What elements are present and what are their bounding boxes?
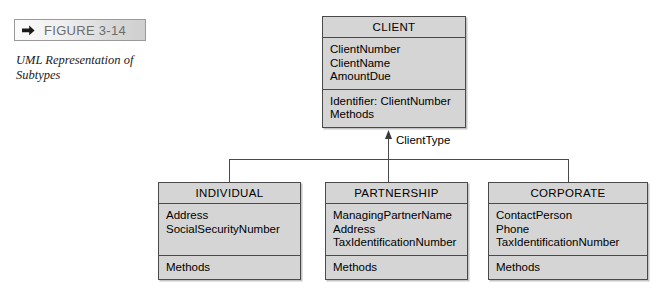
attribute: TaxIdentificationNumber <box>496 236 647 250</box>
attribute: Phone <box>496 223 647 237</box>
class-operations-individual: Methods <box>159 256 300 280</box>
class-attributes-individual: Address SocialSecurityNumber <box>159 204 300 256</box>
operation: Methods <box>333 261 467 275</box>
attribute: ClientName <box>330 57 465 71</box>
operation: Methods <box>166 261 300 275</box>
class-name-corporate: CORPORATE <box>489 183 647 204</box>
figure-number-label: FIGURE 3-14 <box>44 23 126 38</box>
operation: Methods <box>496 261 647 275</box>
attribute: ClientNumber <box>330 43 465 57</box>
attribute: ManagingPartnerName <box>333 209 467 223</box>
class-operations-corporate: Methods <box>489 256 647 280</box>
connector-horizontal-bus <box>229 159 569 160</box>
connector-drop-corporate <box>568 159 569 182</box>
uml-class-client[interactable]: CLIENT ClientNumber ClientName AmountDue… <box>322 16 466 128</box>
operation: Methods <box>330 108 465 122</box>
attribute: TaxIdentificationNumber <box>333 236 467 250</box>
attribute: AmountDue <box>330 70 465 84</box>
class-operations-partnership: Methods <box>326 256 467 280</box>
attribute: Address <box>333 223 467 237</box>
attribute: Address <box>166 209 300 223</box>
class-name-partnership: PARTNERSHIP <box>326 183 467 204</box>
triangle-right-icon <box>22 25 35 36</box>
class-name-client: CLIENT <box>323 17 465 38</box>
attribute: ContactPerson <box>496 209 647 223</box>
attribute-spacer <box>166 236 300 250</box>
uml-class-partnership[interactable]: PARTNERSHIP ManagingPartnerName Address … <box>325 182 468 280</box>
figure-label-box: FIGURE 3-14 <box>14 19 146 41</box>
discriminator-label: ClientType <box>396 134 450 146</box>
uml-class-individual[interactable]: INDIVIDUAL Address SocialSecurityNumber … <box>158 182 301 280</box>
class-attributes-partnership: ManagingPartnerName Address TaxIdentific… <box>326 204 467 256</box>
class-attributes-client: ClientNumber ClientName AmountDue <box>323 38 465 90</box>
class-attributes-corporate: ContactPerson Phone TaxIdentificationNum… <box>489 204 647 256</box>
class-name-individual: INDIVIDUAL <box>159 183 300 204</box>
attribute: SocialSecurityNumber <box>166 223 300 237</box>
connector-drop-individual <box>229 159 230 182</box>
uml-class-corporate[interactable]: CORPORATE ContactPerson Phone TaxIdentif… <box>488 182 648 280</box>
class-operations-client: Identifier: ClientNumber Methods <box>323 90 465 127</box>
operation: Identifier: ClientNumber <box>330 95 465 109</box>
connector-drop-partnership <box>388 159 389 182</box>
connector-trunk-vertical <box>388 138 389 159</box>
figure-caption: UML Representation of Subtypes <box>16 53 166 83</box>
